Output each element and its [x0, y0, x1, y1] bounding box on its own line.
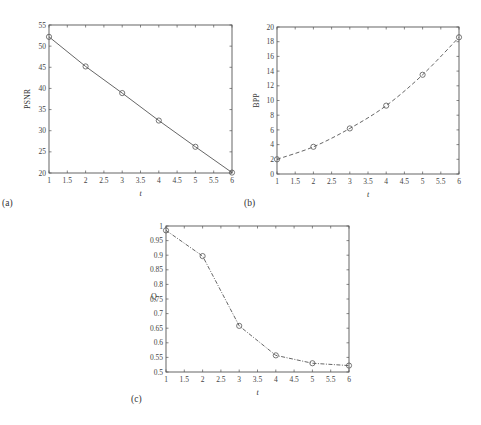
y-tick-label: 0.55: [150, 353, 163, 362]
x-tick-label: 5.5: [209, 176, 219, 185]
x-tick-label: 2.5: [216, 375, 226, 384]
x-tick-label: 1.5: [63, 176, 73, 185]
x-tick-label: 5: [421, 177, 425, 186]
y-tick-label: 0.6: [154, 338, 164, 347]
data-markers: [163, 228, 351, 368]
x-axis-ticks: 11.522.533.544.555.56: [275, 27, 461, 186]
chart-b: 11.522.533.544.555.5602468101214161820tB…: [244, 23, 462, 209]
x-tick-label: 5: [311, 375, 315, 384]
y-tick-label: 35: [39, 105, 47, 114]
y-tick-label: 6: [270, 126, 274, 135]
y-tick-label: 0.85: [150, 265, 163, 274]
chart-a: 11.522.533.544.555.562025303540455055tPS…: [2, 21, 235, 209]
x-tick-label: 5.5: [326, 375, 336, 384]
x-tick-label: 3.5: [363, 177, 373, 186]
y-tick-label: 20: [267, 23, 275, 32]
x-axis-label: t: [139, 189, 142, 198]
y-tick-label: 2: [270, 155, 274, 164]
y-axis-label: PSNR: [23, 88, 32, 109]
x-tick-label: 4.5: [400, 177, 410, 186]
y-tick-label: 0.65: [150, 324, 163, 333]
y-tick-label: 14: [267, 67, 275, 76]
plot-frame: [49, 25, 232, 173]
x-tick-label: 6: [457, 177, 461, 186]
circle-marker: [384, 103, 389, 108]
y-tick-label: 4: [270, 140, 274, 149]
y-axis-label: BPP: [252, 93, 261, 108]
x-tick-label: 3: [348, 177, 352, 186]
figure: 11.522.533.544.555.562025303540455055tPS…: [0, 0, 481, 425]
y-axis-ticks: 2025303540455055: [39, 21, 233, 178]
y-axis-ticks: 02468101214161820: [267, 23, 460, 179]
x-tick-label: 2.5: [99, 176, 109, 185]
y-tick-label: 0.5: [154, 368, 164, 377]
x-tick-label: 4.5: [289, 375, 299, 384]
y-tick-label: 25: [39, 147, 47, 156]
x-tick-label: 6: [347, 375, 351, 384]
y-tick-label: 1: [159, 222, 163, 231]
y-tick-label: 12: [267, 81, 275, 90]
x-tick-label: 5.5: [436, 177, 446, 186]
y-tick-label: 8: [270, 111, 274, 120]
x-axis-label: t: [367, 190, 370, 199]
y-tick-label: 16: [267, 52, 275, 61]
x-tick-label: 4: [157, 176, 161, 185]
y-tick-label: 40: [39, 84, 47, 93]
x-tick-label: 3: [237, 375, 241, 384]
y-tick-label: 50: [39, 42, 47, 51]
x-tick-label: 5: [194, 176, 198, 185]
x-tick-label: 1.5: [180, 375, 190, 384]
x-tick-label: 2: [312, 177, 316, 186]
y-tick-label: 0.95: [150, 236, 163, 245]
x-tick-label: 6: [230, 176, 234, 185]
data-markers: [274, 35, 461, 162]
x-axis-label: t: [256, 388, 259, 397]
y-tick-label: 20: [39, 169, 47, 178]
y-axis-ticks: 0.50.550.60.650.70.750.80.850.90.951: [150, 222, 349, 377]
x-tick-label: 4: [384, 177, 388, 186]
series-line: [49, 37, 232, 173]
y-tick-label: 45: [39, 63, 47, 72]
x-tick-label: 1: [47, 176, 51, 185]
x-axis-ticks: 11.522.533.544.555.56: [47, 25, 234, 185]
x-tick-label: 4.5: [172, 176, 182, 185]
x-axis-ticks: 11.522.533.544.555.56: [164, 226, 351, 384]
circle-marker: [200, 253, 205, 258]
x-tick-label: 2: [201, 375, 205, 384]
circle-marker: [311, 144, 316, 149]
y-tick-label: 0.8: [154, 280, 164, 289]
y-tick-label: 10: [267, 96, 275, 105]
y-tick-label: 0.9: [154, 251, 164, 260]
panel-label: (b): [244, 198, 255, 209]
chart-c: 11.522.533.544.555.560.50.550.60.650.70.…: [131, 222, 352, 405]
x-tick-label: 3.5: [136, 176, 146, 185]
y-tick-label: 0.7: [154, 309, 164, 318]
x-tick-label: 4: [274, 375, 278, 384]
series-line: [277, 37, 459, 159]
x-tick-label: 1: [275, 177, 279, 186]
series-line: [166, 230, 349, 365]
y-axis-label: Q: [151, 292, 157, 301]
x-tick-label: 3: [120, 176, 124, 185]
y-tick-label: 0: [270, 170, 274, 179]
x-tick-label: 2.5: [327, 177, 337, 186]
x-tick-label: 1.5: [291, 177, 301, 186]
x-tick-label: 1: [164, 375, 168, 384]
plot-frame: [277, 27, 459, 174]
panel-label: (c): [131, 394, 142, 405]
x-tick-label: 2: [84, 176, 88, 185]
plot-frame: [166, 226, 349, 372]
x-tick-label: 3.5: [253, 375, 263, 384]
y-tick-label: 18: [267, 37, 275, 46]
y-tick-label: 55: [39, 21, 47, 30]
panel-label: (a): [2, 198, 13, 209]
y-tick-label: 30: [39, 126, 47, 135]
